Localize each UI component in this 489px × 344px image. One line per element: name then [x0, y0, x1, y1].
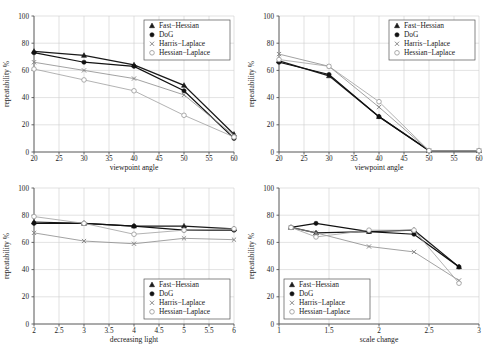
- x-tick-label: 4: [132, 327, 136, 335]
- x-tick-label: 3: [82, 327, 86, 335]
- x-tick-label: 1.5: [325, 327, 334, 335]
- chart-svg: 202530354045505560020406080100viewpoint …: [245, 0, 489, 172]
- x-tick-label: 5: [182, 327, 186, 335]
- y-tick-label: 20: [267, 293, 275, 301]
- data-point-dog: [457, 265, 461, 269]
- data-point-hessian_laplace: [82, 221, 87, 226]
- legend-label-hessian_laplace: Hessian−Laplace: [159, 48, 211, 57]
- x-tick-label: 3.5: [105, 327, 114, 335]
- x-tick-label: 35: [350, 155, 358, 163]
- legend-label-hessian_laplace: Hessian−Laplace: [404, 48, 456, 57]
- panel-viewpoint-angle-wall: 202530354045505560020406080100viewpoint …: [245, 0, 489, 172]
- data-point-hessian_laplace: [327, 64, 332, 69]
- legend-label-dog: DoG: [404, 30, 419, 39]
- panel-viewpoint-angle-graffiti: 202530354045505560020406080100viewpoint …: [0, 0, 244, 172]
- legend-label-dog: DoG: [299, 289, 314, 298]
- data-point-hessian_laplace: [412, 228, 417, 233]
- legend-label-hessian_laplace: Hessian−Laplace: [299, 307, 351, 316]
- x-tick-label: 60: [230, 155, 238, 163]
- y-tick-label: 100: [263, 13, 274, 21]
- x-tick-label: 20: [30, 155, 38, 163]
- y-tick-label: 20: [267, 121, 275, 129]
- data-point-hessian_laplace: [477, 148, 482, 153]
- x-tick-label: 4.5: [155, 327, 164, 335]
- x-tick-label: 35: [105, 155, 113, 163]
- x-tick-label: 1: [277, 327, 281, 335]
- legend: Fast−HessianDoGHarris−LaplaceHessian−Lap…: [144, 20, 230, 60]
- x-tick-label: 6: [232, 327, 236, 335]
- legend-label-dog: DoG: [159, 30, 174, 39]
- chart-svg: 202530354045505560020406080100viewpoint …: [0, 0, 244, 172]
- series-dog: [289, 221, 461, 269]
- y-axis-title: repeatability %: [247, 60, 256, 107]
- panel-scale-change: 11.522.53020406080100scale changerepeata…: [245, 172, 489, 344]
- legend-label-hessian_laplace: Hessian−Laplace: [159, 307, 211, 316]
- x-tick-label: 5.5: [205, 327, 214, 335]
- data-point-hessian_laplace: [32, 214, 37, 219]
- legend-marker-icon: [395, 33, 399, 37]
- legend-label-dog: DoG: [159, 289, 174, 298]
- y-tick-label: 0: [270, 149, 274, 157]
- y-tick-label: 0: [25, 321, 29, 329]
- legend: Fast−HessianDoGHarris−LaplaceHessian−Lap…: [144, 279, 230, 319]
- data-point-dog: [132, 64, 136, 68]
- data-point-dog: [377, 115, 381, 119]
- y-axis-title: repeatability %: [2, 60, 11, 107]
- data-point-hessian_laplace: [32, 67, 37, 72]
- y-tick-label: 40: [267, 266, 275, 274]
- x-tick-label: 60: [475, 155, 483, 163]
- data-point-hessian_laplace: [232, 135, 237, 140]
- legend-marker-icon: [150, 310, 155, 315]
- series-harris_laplace: [289, 225, 461, 282]
- chart-svg: 22.533.544.555.56020406080100decreasing …: [0, 172, 244, 344]
- figure-grid: 202530354045505560020406080100viewpoint …: [0, 0, 489, 344]
- data-point-dog: [82, 60, 86, 64]
- y-tick-label: 20: [22, 121, 30, 129]
- y-tick-label: 100: [263, 185, 274, 193]
- data-point-hessian_laplace: [314, 235, 319, 240]
- chart-svg: 11.522.53020406080100scale changerepeata…: [245, 172, 489, 344]
- data-point-hessian_laplace: [182, 228, 187, 233]
- data-point-dog: [314, 221, 318, 225]
- x-tick-label: 25: [300, 155, 308, 163]
- y-axis-title: repeatability %: [2, 232, 11, 279]
- x-tick-label: 45: [400, 155, 408, 163]
- data-point-hessian_laplace: [132, 232, 137, 237]
- data-point-hessian_laplace: [427, 148, 432, 153]
- data-point-dog: [32, 221, 36, 225]
- data-point-dog: [32, 51, 36, 55]
- data-point-dog: [132, 224, 136, 228]
- legend-marker-icon: [290, 292, 294, 296]
- data-point-hessian_laplace: [377, 99, 382, 104]
- y-tick-label: 80: [22, 212, 30, 220]
- legend-label-harris_laplace: Harris−Laplace: [404, 39, 451, 48]
- x-tick-label: 2.5: [425, 327, 434, 335]
- y-tick-label: 40: [22, 266, 30, 274]
- x-tick-label: 30: [325, 155, 333, 163]
- data-point-hessian_laplace: [182, 113, 187, 118]
- data-point-hessian_laplace: [277, 57, 282, 62]
- x-tick-label: 20: [275, 155, 283, 163]
- legend-marker-icon: [150, 292, 154, 296]
- y-tick-label: 60: [22, 239, 30, 247]
- y-tick-label: 80: [267, 40, 275, 48]
- legend: Fast−HessianDoGHarris−LaplaceHessian−Lap…: [284, 279, 370, 319]
- data-point-dog: [327, 72, 331, 76]
- x-tick-label: 50: [180, 155, 188, 163]
- x-tick-label: 30: [80, 155, 88, 163]
- x-tick-label: 55: [205, 155, 213, 163]
- y-tick-label: 100: [18, 13, 29, 21]
- x-tick-label: 40: [130, 155, 138, 163]
- x-axis-title: decreasing light: [110, 335, 159, 344]
- legend-marker-icon: [395, 51, 400, 56]
- y-tick-label: 20: [22, 293, 30, 301]
- legend: Fast−HessianDoGHarris−LaplaceHessian−Lap…: [389, 20, 475, 60]
- legend-label-fast_hessian: Fast−Hessian: [159, 21, 199, 30]
- x-tick-label: 25: [55, 155, 63, 163]
- data-point-hessian_laplace: [82, 78, 87, 83]
- legend-marker-icon: [290, 310, 295, 315]
- y-tick-label: 60: [267, 67, 275, 75]
- x-tick-label: 45: [155, 155, 163, 163]
- y-tick-label: 80: [22, 40, 30, 48]
- data-point-hessian_laplace: [367, 228, 372, 233]
